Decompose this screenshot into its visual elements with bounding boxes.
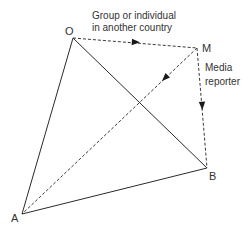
arrow-m-to-b-icon [199, 102, 205, 111]
point-label-b: B [209, 170, 216, 182]
arrow-m-to-a-icon [162, 73, 170, 81]
edge-a-b [22, 168, 207, 214]
annotation-group-line2: in another country [92, 22, 172, 33]
arrow-o-to-m-icon [132, 39, 140, 45]
information-flow-diagram: O M B A Group or individual in another c… [0, 0, 251, 235]
edge-o-b [73, 38, 207, 168]
point-label-a: A [11, 212, 19, 224]
annotation-group-line1: Group or individual [92, 10, 176, 21]
point-label-m: M [202, 42, 211, 54]
annotation-media-line2: reporter [205, 76, 241, 87]
edge-o-a [22, 38, 73, 214]
annotation-media-line1: Media [205, 62, 233, 73]
point-label-o: O [65, 25, 74, 37]
